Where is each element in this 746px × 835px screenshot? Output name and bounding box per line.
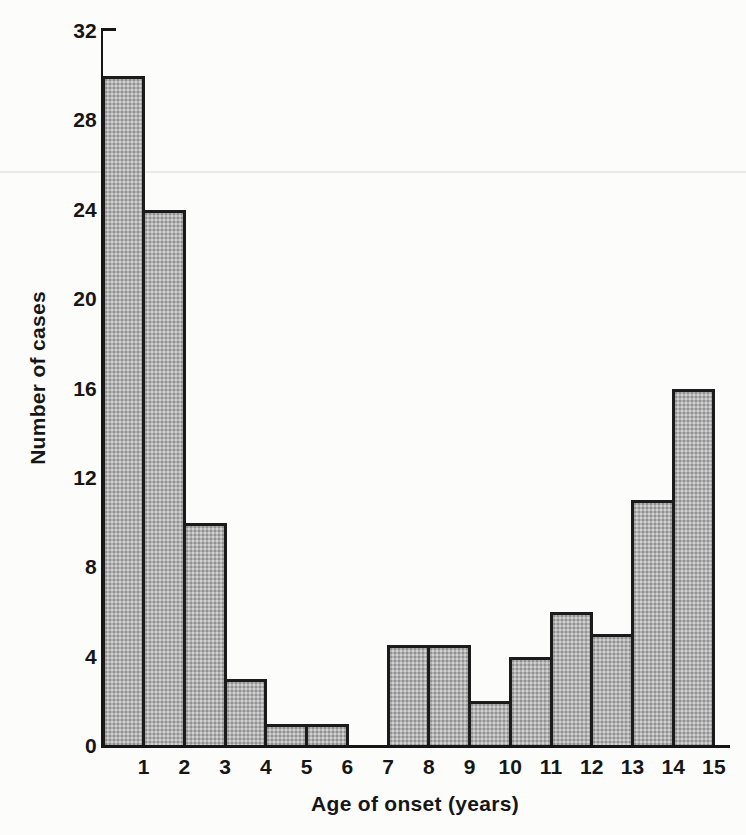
y-tick-label-4: 4 xyxy=(39,644,97,670)
y-tick-label-32: 32 xyxy=(39,18,97,44)
x-tick-label-6: 6 xyxy=(327,754,367,780)
bar-age-3-4 xyxy=(224,679,268,748)
y-tick-label-28: 28 xyxy=(39,107,97,133)
bar-age-14-15 xyxy=(672,389,716,749)
y-axis-title: Number of cases xyxy=(26,291,50,465)
y-axis-line xyxy=(101,28,104,748)
bar-age-12-13 xyxy=(590,634,634,748)
x-tick-label-10: 10 xyxy=(490,754,530,780)
y-tick-label-0: 0 xyxy=(39,733,97,759)
bar-age-7-8 xyxy=(387,645,431,748)
x-tick-label-2: 2 xyxy=(164,754,204,780)
x-tick-label-11: 11 xyxy=(531,754,571,780)
plot-area: 048121620242832123456789101112131415 xyxy=(0,0,746,835)
histogram-figure: 048121620242832123456789101112131415 Num… xyxy=(0,0,746,835)
x-tick-label-15: 15 xyxy=(694,754,734,780)
y-tick-label-12: 12 xyxy=(39,465,97,491)
bar-age-10-11 xyxy=(509,657,553,748)
bar-age-8-9 xyxy=(427,645,471,748)
x-tick-label-5: 5 xyxy=(287,754,327,780)
x-tick-label-1: 1 xyxy=(124,754,164,780)
bar-age-11-12 xyxy=(550,612,594,748)
x-axis-title: Age of onset (years) xyxy=(103,792,727,816)
bar-age-9-10 xyxy=(468,701,512,748)
x-tick-label-14: 14 xyxy=(653,754,693,780)
x-tick-label-3: 3 xyxy=(205,754,245,780)
y-tick-label-24: 24 xyxy=(39,197,97,223)
x-axis-line xyxy=(101,745,730,748)
x-tick-label-13: 13 xyxy=(613,754,653,780)
x-tick-label-12: 12 xyxy=(572,754,612,780)
y-axis-top-tick xyxy=(101,28,116,31)
x-tick-label-7: 7 xyxy=(368,754,408,780)
x-tick-label-9: 9 xyxy=(450,754,490,780)
bar-age-0-1 xyxy=(102,76,146,748)
x-tick-label-4: 4 xyxy=(246,754,286,780)
x-tick-label-8: 8 xyxy=(409,754,449,780)
bar-age-13-14 xyxy=(631,500,675,748)
bar-age-2-3 xyxy=(183,523,227,748)
y-tick-label-8: 8 xyxy=(39,554,97,580)
bar-age-1-2 xyxy=(142,210,186,748)
